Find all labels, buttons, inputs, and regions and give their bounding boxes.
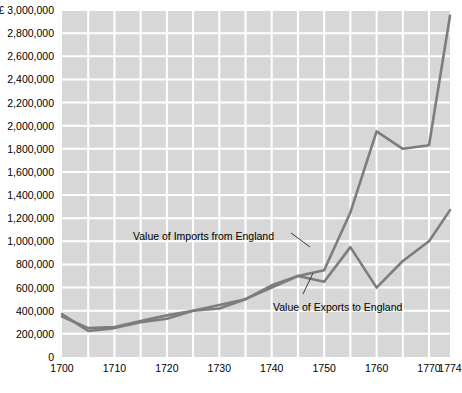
y-axis-tick-label: 2,200,000: [0, 98, 58, 108]
y-axis-tick-label: 600,000: [0, 283, 58, 293]
y-axis-tick-labels: £ 3,000,0002,800,0002,600,0002,400,0002,…: [0, 0, 58, 393]
x-axis-tick-label: 1750: [312, 362, 335, 374]
y-axis-tick-label: 1,000,000: [0, 236, 58, 246]
y-axis-tick-label: 1,200,000: [0, 213, 58, 223]
annotation-exports-label: Value of Exports to England: [273, 301, 402, 313]
x-axis-tick-label: 1730: [208, 362, 231, 374]
x-axis-tick-label: 1700: [50, 362, 73, 374]
series-lines: [62, 16, 450, 331]
y-axis-tick-label: 2,000,000: [0, 121, 58, 131]
y-axis-tick-label: 2,400,000: [0, 74, 58, 84]
x-axis-tick-label: 1710: [103, 362, 126, 374]
series-line-imports: [62, 16, 450, 331]
x-axis-tick-label: 1740: [260, 362, 283, 374]
x-axis-tick-label: 1760: [365, 362, 388, 374]
y-axis-tick-label: 800,000: [0, 259, 58, 269]
y-axis-tick-label: 0: [0, 352, 58, 362]
y-axis-tick-label: 2,800,000: [0, 28, 58, 38]
y-axis-tick-label: 1,600,000: [0, 167, 58, 177]
x-axis-tick-label: 1720: [155, 362, 178, 374]
annotation-imports-label: Value of Imports from England: [133, 230, 274, 242]
leader-line-imports-label: [291, 233, 310, 247]
y-axis-tick-label: 200,000: [0, 329, 58, 339]
y-axis-tick-label: £ 3,000,000: [0, 5, 58, 15]
y-axis-tick-label: 400,000: [0, 306, 58, 316]
x-axis-tick-label: 1770: [417, 362, 440, 374]
y-axis-tick-label: 1,400,000: [0, 190, 58, 200]
x-axis-tick-label: 1774: [438, 362, 461, 374]
y-axis-tick-label: 2,600,000: [0, 51, 58, 61]
y-axis-tick-label: 1,800,000: [0, 144, 58, 154]
